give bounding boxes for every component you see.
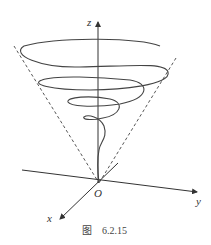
y-axis-label: y [195,195,201,207]
conical-helix [21,39,169,183]
diagram-canvas: z y x O 图 6.2.15 [0,0,211,245]
z-axis-label: z [86,16,92,28]
x-axis-label: x [46,212,52,224]
x-axis [60,163,118,219]
figure-caption-prefix: 图 [82,225,92,236]
figure-caption-number: 6.2.15 [102,225,127,236]
y-axis [22,170,197,192]
origin-label: O [94,187,102,199]
